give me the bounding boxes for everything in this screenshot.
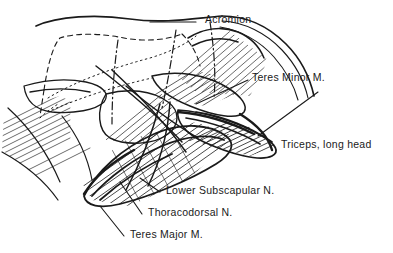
reflection-line-dashdot [112, 22, 215, 124]
leader-triceps [258, 92, 318, 136]
label-acromion: Acromion [205, 13, 251, 25]
label-teres-minor: Teres Minor M. [252, 71, 325, 83]
anatomical-illustration: Acromion Teres Minor M. Triceps, long he… [0, 0, 393, 253]
label-triceps-long-head: Triceps, long head [281, 138, 372, 150]
hatching-teres-minor [140, 62, 268, 134]
shoulder-outline [36, 16, 314, 96]
acromion-bone [188, 29, 264, 58]
label-lower-subscapular-n: Lower Subscapular N. [166, 184, 274, 196]
skin-flap-dashed [40, 34, 200, 116]
hatching-deltoid-left [0, 90, 90, 188]
deltoid-reflected-edge [24, 80, 106, 113]
leader-teres-major [100, 206, 124, 236]
label-teres-major: Teres Major M. [130, 228, 203, 240]
label-thoracodorsal-n: Thoracodorsal N. [148, 206, 233, 218]
